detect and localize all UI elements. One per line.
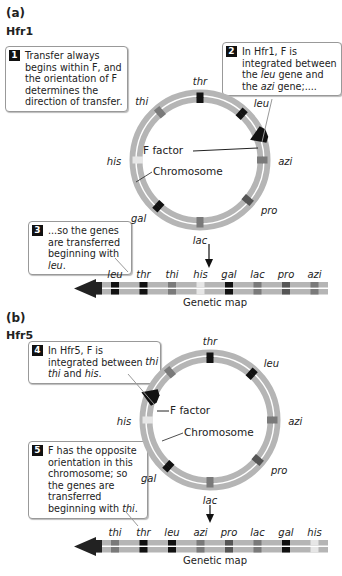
part-a-chromosome-label: Chromosome <box>153 165 223 177</box>
part-b-map-title: Genetic map <box>183 555 247 566</box>
part-a-map-title: Genetic map <box>183 297 247 308</box>
part-b-map-label-thi: thi <box>108 527 121 538</box>
gene-band-inner <box>138 157 144 164</box>
part-a-map-gene-band-lac <box>254 289 262 295</box>
part-a-map-arrow-shaft <box>94 282 102 295</box>
part-b-map-label-gal: gal <box>278 527 293 538</box>
part-b-chromosome-label: Chromosome <box>184 426 254 438</box>
part-a-map-label-gal: gal <box>221 269 236 280</box>
part-a-ring-label-thi: thi <box>135 96 148 107</box>
part-a-map-gene-band-pro <box>282 289 290 295</box>
part-a-map-gene-band-thi <box>168 282 176 288</box>
part-a-f-factor-label: F factor <box>143 144 184 156</box>
part-b-map-gene-band-azi <box>197 540 205 546</box>
part-a-ring-gene-azi <box>257 157 268 164</box>
part-b-map-label-his: his <box>307 527 321 538</box>
part-a-map-strand-top <box>94 282 328 288</box>
gene-band-outer <box>197 222 204 228</box>
gene-band-inner <box>197 217 204 223</box>
part-b-ring-label-leu: leu <box>264 358 279 369</box>
part-b-map-gene-band-thi <box>111 540 119 546</box>
part-b-map-label-lac: lac <box>250 527 265 538</box>
part-a-map-gene-band-thi <box>168 289 176 295</box>
part-a-map-gene-band-azi <box>311 282 319 288</box>
part-a-map-label-lac: lac <box>250 269 265 280</box>
part-a-map-label-thr: thr <box>136 269 151 280</box>
part-b-ring-gene-thr <box>207 353 214 364</box>
part-a-map-label-his: his <box>193 269 207 280</box>
gene-band-inner <box>267 417 273 424</box>
part-a-map-label-leu: leu <box>107 269 122 280</box>
gene-band-outer <box>143 417 149 424</box>
gene-band-inner <box>207 477 214 483</box>
part-b-map-gene-band-pro <box>225 547 233 553</box>
part-a-ring-gene-thr <box>197 93 204 104</box>
part-a-map-gene-band-gal <box>225 282 233 288</box>
part-b-ring-gene-his <box>143 417 154 424</box>
part-b-map-gene-band-gal <box>282 540 290 546</box>
part-a-map-direction-arrow <box>74 279 96 298</box>
part-b-map-label-leu: leu <box>164 527 179 538</box>
part-b-map-gene-band-thr <box>140 547 148 553</box>
part-a-map-gene-band-lac <box>254 282 262 288</box>
part-b-map-gene-band-his <box>311 540 319 546</box>
callout-5-pointer <box>126 512 138 526</box>
part-b-ring-label-azi: azi <box>288 416 302 427</box>
part-a-map-gene-band-leu <box>111 282 119 288</box>
part-b-map-gene-band-thi <box>111 547 119 553</box>
gene-band-outer <box>133 157 139 164</box>
gene-band-inner <box>207 358 214 364</box>
gene-band-inner <box>148 417 154 424</box>
part-b-map-gene-band-gal <box>282 547 290 553</box>
part-a-ring-label-his: his <box>107 156 121 167</box>
part-a-map-gene-band-thr <box>140 289 148 295</box>
part-a-ring-label-gal: gal <box>131 213 146 224</box>
part-b-chromosome-pointer <box>162 433 183 441</box>
part-b-map-gene-band-leu <box>168 547 176 553</box>
part-a-map-strand-bottom <box>94 289 328 295</box>
part-a-lac-arrow-head <box>205 259 213 268</box>
part-b-map-direction-arrow <box>74 537 96 556</box>
part-b-map-gene-band-thr <box>140 540 148 546</box>
part-b-ring-label-lac: lac <box>203 495 218 506</box>
gene-band-outer <box>262 157 268 164</box>
part-b-ring-label-thi: thi <box>145 356 158 367</box>
gene-band-outer <box>207 482 214 488</box>
part-b-ring-gene-lac <box>207 477 214 488</box>
part-b-f-factor-label: F factor <box>170 404 211 416</box>
gene-band-outer <box>272 417 278 424</box>
part-b-ring-label-pro: pro <box>270 465 288 476</box>
part-a-ring-gene-lac <box>197 217 204 228</box>
gene-band-outer <box>197 93 204 99</box>
part-a-map-gene-band-his <box>197 282 205 288</box>
part-a-map-label-thi: thi <box>165 269 178 280</box>
part-a-ring-label-pro: pro <box>260 205 278 216</box>
part-a-map-gene-band-thr <box>140 282 148 288</box>
part-a-map-gene-band-gal <box>225 289 233 295</box>
part-a-map-label-pro: pro <box>277 269 295 280</box>
part-b-map-strand-bottom <box>94 547 328 553</box>
part-b-map-gene-band-azi <box>197 547 205 553</box>
part-a-ring-label-azi: azi <box>278 156 292 167</box>
part-a-map-gene-band-his <box>197 289 205 295</box>
part-b-lac-arrow-head <box>206 514 214 523</box>
gene-band-outer <box>207 353 214 359</box>
part-a-map-gene-band-azi <box>311 289 319 295</box>
part-b-map-gene-band-leu <box>168 540 176 546</box>
part-b-map-arrow-shaft <box>94 540 102 553</box>
part-a-map-gene-band-leu <box>111 289 119 295</box>
part-a-ring-label-leu: leu <box>254 98 269 109</box>
part-b-map-gene-band-lac <box>254 547 262 553</box>
part-b-map-gene-band-lac <box>254 540 262 546</box>
part-a-ring-label-thr: thr <box>193 76 208 87</box>
part-a-f-factor-pointer <box>193 148 258 151</box>
part-b-map-label-pro: pro <box>220 527 238 538</box>
part-b-map-label-thr: thr <box>136 527 151 538</box>
part-b-ring-label-his: his <box>117 416 131 427</box>
part-b-ring-label-thr: thr <box>203 336 218 347</box>
part-a-map-gene-band-pro <box>282 282 290 288</box>
part-b-map-strand-top <box>94 540 328 546</box>
part-b-map-gene-band-his <box>311 547 319 553</box>
gene-band-inner <box>197 98 204 104</box>
